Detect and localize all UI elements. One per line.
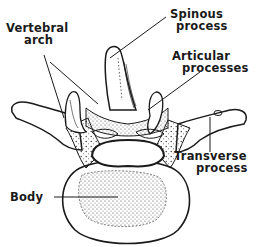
label-spinous-process: Spinous process <box>170 8 228 32</box>
label-transverse-process: Transverse process <box>174 150 248 174</box>
vertebral-body <box>63 161 190 244</box>
label-spinous-line2: process <box>170 20 228 32</box>
leader-articular-processes <box>148 72 200 110</box>
vertebra-diagram: Vertebral arch Spinous process Articular… <box>0 0 258 247</box>
label-vertebral-arch-line2: arch <box>6 34 68 46</box>
label-transverse-line2: process <box>174 162 248 174</box>
label-body: Body <box>10 191 43 203</box>
label-articular-processes: Articular processes <box>172 50 249 74</box>
label-articular-line2: processes <box>172 62 249 74</box>
label-vertebral-arch: Vertebral arch <box>6 22 68 46</box>
leader-spinous-process <box>110 17 166 58</box>
